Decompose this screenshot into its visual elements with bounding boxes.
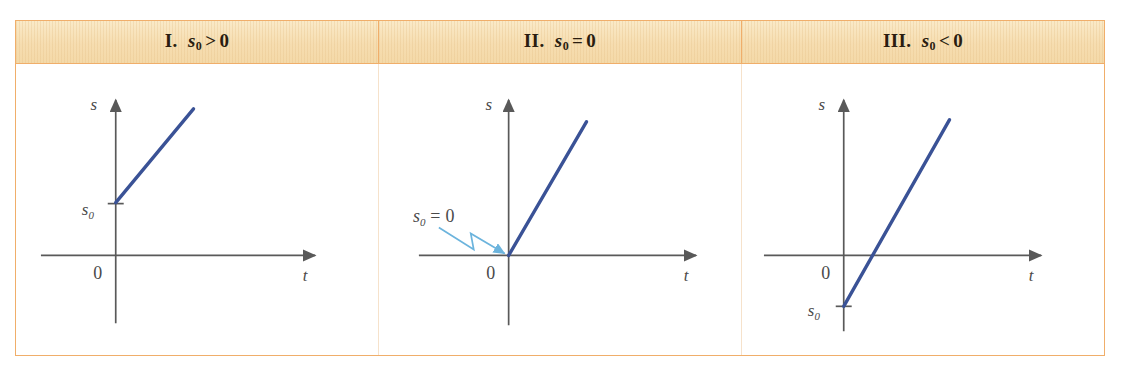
data-line xyxy=(509,122,587,256)
intercept-label: s0 xyxy=(808,301,821,322)
header-op-2: = xyxy=(569,30,586,51)
header-var-2: s xyxy=(555,30,563,51)
graph-cell-case-1: s t 0 s0 xyxy=(16,64,378,355)
intercept-label: s0 xyxy=(82,200,95,221)
header-sub-3: 0 xyxy=(930,39,936,53)
header-cell-case-1: I. s0>0 xyxy=(16,21,378,63)
header-roman-3: III. xyxy=(883,30,912,51)
graph-case-3: s t 0 s0 xyxy=(742,64,1104,355)
header-label-case-1: I. s0>0 xyxy=(165,30,230,54)
y-axis-label: s xyxy=(818,95,825,114)
callout-sub: 0 xyxy=(420,216,426,228)
header-rhs-1: 0 xyxy=(219,30,229,51)
data-line xyxy=(116,109,194,203)
intercept-sub: 0 xyxy=(814,310,820,322)
callout-op: = xyxy=(430,206,440,226)
y-axis-label: s xyxy=(90,95,97,114)
origin-label: 0 xyxy=(93,263,102,283)
header-var-1: s xyxy=(188,30,196,51)
header-label-case-3: III. s0<0 xyxy=(883,30,963,54)
header-var-3: s xyxy=(922,30,930,51)
header-cell-case-2: II. s0=0 xyxy=(378,21,741,63)
callout-arrow-icon xyxy=(439,228,505,254)
graph-cell-case-3: s t 0 s0 xyxy=(741,64,1104,355)
origin-label: 0 xyxy=(821,263,830,283)
callout-var: s xyxy=(413,206,420,226)
x-axis-label: t xyxy=(303,266,309,285)
graph-case-1: s t 0 s0 xyxy=(16,64,378,355)
header-label-case-2: II. s0=0 xyxy=(524,30,596,54)
data-line xyxy=(844,120,950,306)
header-roman-2: II. xyxy=(524,30,545,51)
x-axis-label: t xyxy=(684,266,690,285)
callout-label: s0=0 xyxy=(413,206,455,228)
graph-case-2: s t 0 s0=0 xyxy=(379,64,741,355)
header-cell-case-3: III. s0<0 xyxy=(741,21,1104,63)
intercept-sub: 0 xyxy=(88,209,94,221)
callout-rhs: 0 xyxy=(445,206,454,226)
header-rhs-2: 0 xyxy=(586,30,596,51)
table-header-row: I. s0>0 II. s0=0 III. s0<0 xyxy=(16,21,1104,64)
header-rhs-3: 0 xyxy=(953,30,963,51)
header-op-1: > xyxy=(202,30,219,51)
header-roman-1: I. xyxy=(165,30,178,51)
x-axis-label: t xyxy=(1029,266,1035,285)
graph-cell-case-2: s t 0 s0=0 xyxy=(378,64,741,355)
header-op-3: < xyxy=(936,30,953,51)
origin-label: 0 xyxy=(486,263,495,283)
table-body-row: s t 0 s0 xyxy=(16,64,1104,355)
y-axis-label: s xyxy=(485,95,492,114)
cases-table: I. s0>0 II. s0=0 III. s0<0 xyxy=(15,20,1105,356)
